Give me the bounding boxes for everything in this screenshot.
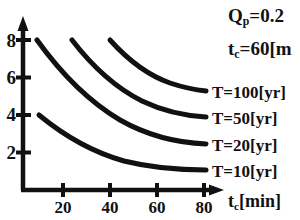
curve-T20 [37,40,206,144]
curve-group [37,40,206,170]
curve-label-T20: T=20[yr] [212,137,277,154]
x-tick-label-80: 80 [189,199,219,216]
annotation-peak-flow-value: =0.2 [249,5,284,26]
x-axis [21,185,224,196]
figure-container: 8 6 4 2 20 40 60 80 tc[min] T=100[yr] T=… [0,0,300,220]
y-axis [18,16,29,190]
x-tick-label-40: 40 [95,199,125,216]
annotation-time-value: =60[m [240,38,292,59]
curve-label-T100: T=100[yr] [212,84,286,101]
curve-T50 [72,40,206,117]
x-tick-label-60: 60 [142,199,172,216]
y-tick-label-4: 4 [0,105,16,124]
y-tick-label-8: 8 [0,31,16,50]
x-axis-title: tc[min] [228,192,281,212]
curve-T100 [110,40,206,91]
curve-label-T50: T=50[yr] [212,110,277,127]
annotation-peak-flow: Qp=0.2 [228,6,284,28]
curve-label-T10: T=10[yr] [212,163,277,180]
y-tick-label-6: 6 [0,68,16,87]
x-tick-label-20: 20 [48,199,78,216]
annotation-time-of-concentration: tc=60[m [228,39,292,61]
annotation-peak-flow-symbol: Q [228,5,243,26]
x-axis-title-unit: [min] [239,191,281,211]
y-tick-label-2: 2 [0,143,16,162]
